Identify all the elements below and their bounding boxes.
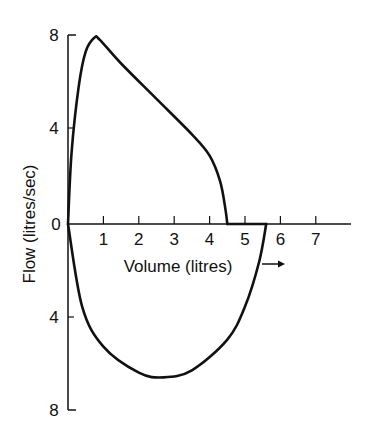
y-tick-label-lower-8: 8: [49, 401, 58, 420]
x-ticks: [103, 216, 315, 224]
volume-direction-arrow-icon: [262, 261, 285, 268]
x-tick-label-2: 2: [134, 230, 143, 249]
y-axis-title: Flow (litres/sec): [20, 164, 39, 283]
y-tick-label-lower-4: 4: [49, 308, 58, 327]
y-tick-label-0: 0: [51, 215, 60, 234]
flow-volume-loop: [68, 36, 266, 377]
x-tick-label-3: 3: [169, 230, 178, 249]
series-expiratory-flow: [68, 36, 227, 224]
x-tick-label-7: 7: [311, 230, 320, 249]
x-tick-labels: 1234567: [99, 230, 321, 249]
x-tick-label-4: 4: [205, 230, 214, 249]
x-tick-label-5: 5: [240, 230, 249, 249]
x-tick-label-6: 6: [276, 230, 285, 249]
y-tick-label-upper-4: 4: [49, 119, 58, 138]
x-axis-title: Volume (litres): [124, 257, 233, 276]
x-tick-label-1: 1: [99, 230, 108, 249]
y-tick-label-upper-8: 8: [49, 26, 58, 45]
flow-volume-chart: 1234567 8 4 0 4 8 Volume (litres) Flow (…: [0, 0, 372, 425]
